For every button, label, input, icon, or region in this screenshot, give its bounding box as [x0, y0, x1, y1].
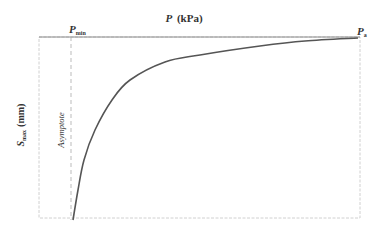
asymptote-label: Asymptote: [56, 112, 66, 149]
y-axis-label: Smax(mm): [15, 104, 27, 147]
chart: P (kPa) Pmin Pa Smax(mm) Asymptote: [0, 0, 388, 239]
p-a-label: Pa: [357, 25, 367, 38]
x-axis-label: P (kPa): [165, 12, 202, 25]
p-min-label: Pmin: [69, 23, 86, 36]
plot-frame: [39, 37, 360, 218]
data-curve: [73, 38, 358, 220]
